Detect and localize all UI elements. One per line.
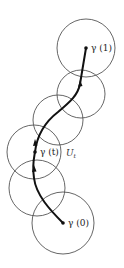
label-neighborhood-ut: Ut	[66, 148, 77, 159]
balls	[7, 19, 115, 254]
label-gamma-t: γ (t)	[40, 147, 59, 157]
covering-diagram: γ (1) γ (t) γ (0) Ut	[0, 0, 124, 268]
point-gamma-0	[61, 221, 65, 225]
label-gamma-1: γ (1)	[91, 43, 112, 53]
point-gamma-t	[33, 150, 37, 154]
arrow-icon	[78, 80, 83, 87]
point-gamma-1	[84, 46, 88, 50]
label-gamma-0: γ (0)	[68, 218, 89, 228]
ball-3	[33, 95, 83, 145]
